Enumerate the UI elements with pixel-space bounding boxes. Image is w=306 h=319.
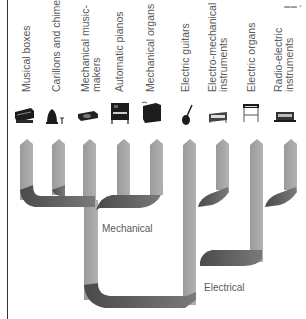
instrument-family-tree bbox=[0, 0, 306, 319]
group-label-electrical: Electrical bbox=[204, 282, 245, 293]
group-label-mechanical: Mechanical bbox=[102, 223, 153, 234]
